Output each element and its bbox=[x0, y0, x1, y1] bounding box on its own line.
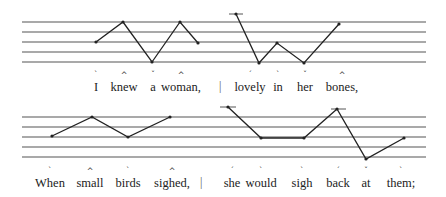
stress-mark: ˇ bbox=[303, 72, 307, 80]
staff-1 bbox=[22, 12, 426, 64]
stress-mark: ˇ bbox=[151, 72, 155, 80]
word: her bbox=[297, 80, 313, 94]
pitch-point bbox=[364, 157, 367, 160]
pitch-point bbox=[196, 41, 199, 44]
pitch-point bbox=[178, 20, 181, 23]
pitch-contour bbox=[236, 14, 339, 63]
pitch-point bbox=[168, 115, 171, 118]
pitch-point bbox=[126, 135, 129, 138]
pitch-point bbox=[402, 136, 405, 139]
stress-mark: ` bbox=[259, 168, 263, 176]
word: lovely bbox=[234, 80, 265, 94]
pitch-point bbox=[226, 105, 229, 108]
word: at bbox=[361, 176, 370, 190]
word: I bbox=[94, 80, 98, 94]
stress-mark: ^ bbox=[121, 72, 128, 80]
stress-mark: ´ bbox=[230, 168, 234, 176]
word: sigh bbox=[292, 176, 313, 190]
stress-mark: ` bbox=[126, 168, 130, 176]
word: bones, bbox=[326, 80, 358, 94]
pitch-point bbox=[302, 136, 305, 139]
intonation-diagram bbox=[0, 0, 446, 197]
stress-mark: ` bbox=[94, 72, 98, 80]
pitch-contour bbox=[228, 107, 404, 159]
word: birds bbox=[116, 176, 141, 190]
pitch-point bbox=[337, 22, 340, 25]
pitch-point bbox=[50, 134, 53, 137]
pitch-point bbox=[257, 61, 260, 64]
stress-mark: ` bbox=[300, 168, 304, 176]
pitch-point bbox=[90, 115, 93, 118]
pitch-point bbox=[234, 12, 237, 15]
word: knew bbox=[110, 80, 137, 94]
stress-mark: ^ bbox=[339, 72, 346, 80]
pitch-point bbox=[302, 61, 305, 64]
pitch-point bbox=[259, 136, 262, 139]
word: sighed, bbox=[154, 176, 190, 190]
pitch-point bbox=[335, 107, 338, 110]
word: When bbox=[35, 176, 65, 190]
staff-2 bbox=[22, 105, 426, 160]
word: a bbox=[150, 80, 156, 94]
stress-mark: ´ bbox=[336, 168, 340, 176]
phrase-separator: | bbox=[219, 79, 221, 94]
pitch-point bbox=[275, 41, 278, 44]
word: would bbox=[245, 176, 276, 190]
stress-mark: ^ bbox=[87, 168, 94, 176]
stress-mark: ` bbox=[48, 168, 52, 176]
stress-mark: ^ bbox=[178, 72, 185, 80]
word: she bbox=[224, 176, 241, 190]
stress-mark: ˇ bbox=[364, 168, 368, 176]
pitch-point bbox=[150, 60, 153, 63]
pitch-point bbox=[94, 40, 97, 43]
stress-mark: ^ bbox=[169, 168, 176, 176]
phrase-separator: | bbox=[200, 175, 202, 190]
word: in bbox=[273, 80, 283, 94]
word: back bbox=[326, 176, 350, 190]
stress-mark: ` bbox=[276, 72, 280, 80]
word: small bbox=[76, 176, 103, 190]
stress-mark: ` bbox=[399, 168, 403, 176]
stress-mark: ´ bbox=[248, 72, 252, 80]
word: them; bbox=[387, 176, 415, 190]
word: woman, bbox=[161, 80, 201, 94]
pitch-point bbox=[121, 20, 124, 23]
